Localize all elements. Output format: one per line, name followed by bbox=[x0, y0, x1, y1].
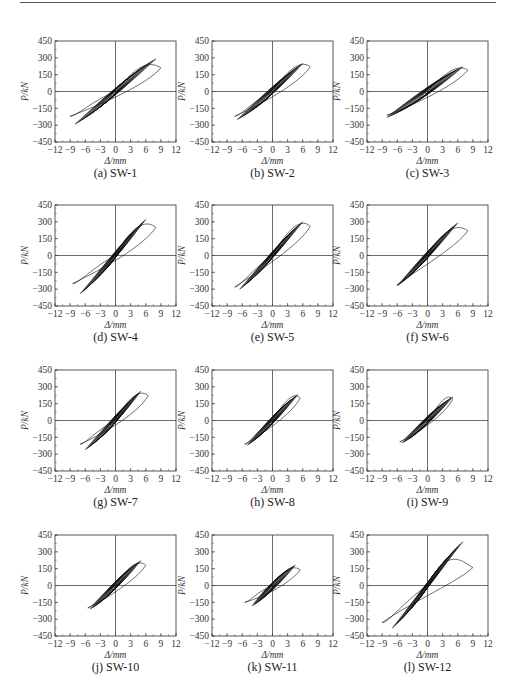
y-tick-label: −150 bbox=[344, 433, 364, 443]
x-tick-label: 9 bbox=[471, 639, 476, 649]
y-tick-label: 300 bbox=[38, 547, 53, 557]
y-tick-label: 150 bbox=[195, 564, 210, 574]
x-tick-label: 3 bbox=[440, 474, 445, 484]
hysteresis-plot: −12−9−6−30369124503001500−150−300−450Δ/m… bbox=[172, 364, 353, 505]
x-tick-label: −9 bbox=[65, 309, 75, 319]
y-tick-label: 150 bbox=[350, 234, 365, 244]
hysteresis-plot: −12−9−6−30369124503001500−150−300−450Δ/m… bbox=[15, 529, 196, 670]
hysteresis-plot: −12−9−6−30369124503001500−150−300−450Δ/m… bbox=[172, 199, 353, 340]
x-tick-label: −9 bbox=[377, 474, 387, 484]
y-tick-label: 450 bbox=[195, 36, 210, 46]
x-tick-label: 3 bbox=[440, 639, 445, 649]
x-tick-label: 0 bbox=[113, 309, 118, 319]
page-header-rule bbox=[20, 2, 496, 3]
x-tick-label: −3 bbox=[252, 309, 262, 319]
y-tick-label: 0 bbox=[47, 87, 52, 97]
y-tick-label: −300 bbox=[189, 449, 209, 459]
y-tick-label: 450 bbox=[350, 365, 365, 375]
y-tick-label: 300 bbox=[38, 53, 53, 63]
hysteresis-plot: −12−9−6−30369124503001500−150−300−450Δ/m… bbox=[15, 199, 196, 340]
x-tick-label: −6 bbox=[392, 639, 402, 649]
y-axis-title: P/kN bbox=[177, 245, 187, 266]
x-tick-label: 9 bbox=[471, 309, 476, 319]
y-tick-label: −450 bbox=[189, 137, 209, 147]
x-axis-title: Δ/mm bbox=[104, 156, 127, 166]
y-tick-label: 150 bbox=[350, 564, 365, 574]
panel-caption: (f) SW-6 bbox=[406, 330, 448, 345]
chart-panel-k: −12−9−6−30369124503001500−150−300−450Δ/m… bbox=[172, 529, 353, 690]
chart-panel-l: −12−9−6−30369124503001500−150−300−450Δ/m… bbox=[327, 529, 508, 690]
hysteresis-plot: −12−9−6−30369124503001500−150−300−450Δ/m… bbox=[327, 199, 508, 340]
x-tick-label: −3 bbox=[407, 145, 417, 155]
hysteresis-loops bbox=[400, 397, 453, 443]
x-tick-label: 3 bbox=[128, 145, 133, 155]
x-tick-label: 6 bbox=[300, 145, 305, 155]
y-tick-label: 150 bbox=[350, 399, 365, 409]
x-axis-title: Δ/mm bbox=[416, 320, 439, 330]
y-tick-label: 150 bbox=[195, 70, 210, 80]
y-axis-title: P/kN bbox=[20, 410, 30, 431]
x-tick-label: 6 bbox=[455, 474, 460, 484]
y-tick-label: −150 bbox=[32, 598, 52, 608]
y-tick-label: 150 bbox=[38, 234, 53, 244]
chart-panel-f: −12−9−6−30369124503001500−150−300−450Δ/m… bbox=[327, 199, 508, 360]
y-tick-label: 450 bbox=[350, 200, 365, 210]
chart-panel-g: −12−9−6−30369124503001500−150−300−450Δ/m… bbox=[15, 364, 196, 525]
x-tick-label: 0 bbox=[270, 474, 275, 484]
y-axis-title: P/kN bbox=[20, 575, 30, 596]
x-tick-label: −3 bbox=[252, 639, 262, 649]
x-tick-label: −6 bbox=[80, 145, 90, 155]
x-tick-label: 6 bbox=[143, 145, 148, 155]
x-tick-label: 3 bbox=[285, 474, 290, 484]
y-tick-label: 0 bbox=[204, 87, 209, 97]
x-tick-label: −9 bbox=[377, 639, 387, 649]
x-tick-label: −3 bbox=[407, 474, 417, 484]
x-tick-label: 3 bbox=[128, 309, 133, 319]
x-tick-label: 6 bbox=[300, 639, 305, 649]
x-tick-label: 6 bbox=[300, 309, 305, 319]
y-tick-label: −150 bbox=[344, 598, 364, 608]
panel-caption: (a) SW-1 bbox=[94, 166, 138, 181]
hysteresis-plot: −12−9−6−30369124503001500−150−300−450Δ/m… bbox=[327, 364, 508, 505]
x-tick-label: 6 bbox=[455, 309, 460, 319]
x-axis-title: Δ/mm bbox=[416, 485, 439, 495]
x-tick-label: 0 bbox=[425, 639, 430, 649]
x-tick-label: 0 bbox=[113, 639, 118, 649]
x-tick-label: −3 bbox=[407, 309, 417, 319]
y-tick-label: 300 bbox=[350, 382, 365, 392]
x-tick-label: 0 bbox=[113, 474, 118, 484]
y-axis-title: P/kN bbox=[177, 81, 187, 102]
x-tick-label: 3 bbox=[128, 639, 133, 649]
x-tick-label: 9 bbox=[316, 474, 321, 484]
x-axis-title: Δ/mm bbox=[261, 320, 284, 330]
y-tick-label: −450 bbox=[32, 137, 52, 147]
x-tick-label: −3 bbox=[407, 639, 417, 649]
y-tick-label: 0 bbox=[204, 251, 209, 261]
chart-panel-i: −12−9−6−30369124503001500−150−300−450Δ/m… bbox=[327, 364, 508, 525]
y-tick-label: 300 bbox=[195, 217, 210, 227]
y-tick-label: 450 bbox=[195, 365, 210, 375]
y-tick-label: 0 bbox=[359, 251, 364, 261]
x-tick-label: −6 bbox=[237, 639, 247, 649]
y-tick-label: −300 bbox=[344, 614, 364, 624]
x-tick-label: 3 bbox=[128, 474, 133, 484]
x-tick-label: −9 bbox=[377, 309, 387, 319]
x-tick-label: 9 bbox=[159, 145, 164, 155]
y-tick-label: 0 bbox=[359, 87, 364, 97]
y-tick-label: −300 bbox=[189, 284, 209, 294]
x-tick-label: 6 bbox=[300, 474, 305, 484]
y-tick-label: −300 bbox=[344, 449, 364, 459]
y-tick-label: 450 bbox=[38, 200, 53, 210]
y-axis-title: P/kN bbox=[332, 410, 342, 431]
y-tick-label: −150 bbox=[189, 268, 209, 278]
x-tick-label: 0 bbox=[270, 639, 275, 649]
x-tick-label: −3 bbox=[95, 309, 105, 319]
panel-caption: (c) SW-3 bbox=[406, 166, 450, 181]
y-tick-label: 450 bbox=[38, 36, 53, 46]
x-tick-label: 6 bbox=[143, 309, 148, 319]
y-axis-title: P/kN bbox=[332, 575, 342, 596]
x-tick-label: 0 bbox=[113, 145, 118, 155]
x-tick-label: 0 bbox=[270, 309, 275, 319]
x-tick-label: 9 bbox=[316, 145, 321, 155]
y-tick-label: −300 bbox=[189, 614, 209, 624]
